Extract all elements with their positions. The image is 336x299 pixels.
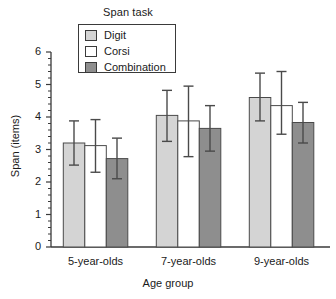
y-tick-label: 6	[25, 45, 41, 57]
y-tick-label: 1	[25, 208, 41, 220]
y-tick-label: 0	[25, 240, 41, 252]
y-tick-label: 3	[25, 143, 41, 155]
bar-chart-figure: Span task Digit Corsi Combination 654321…	[0, 0, 336, 299]
y-axis-label: Span (items)	[9, 98, 21, 194]
y-tick-label: 5	[25, 78, 41, 90]
y-tick-label: 4	[25, 110, 41, 122]
x-axis-label: Age group	[113, 277, 223, 289]
y-tick-label: 2	[25, 175, 41, 187]
x-tick-label: 9-year-olds	[227, 255, 336, 267]
